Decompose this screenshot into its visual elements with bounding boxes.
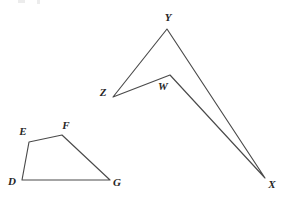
vertex-label-g: G <box>113 177 121 188</box>
vertex-label-e: E <box>19 126 26 137</box>
vertex-label-x: X <box>268 179 275 190</box>
geometry-diagram-canvas: DEFGWXYZ <box>0 0 290 200</box>
vertex-label-w: W <box>158 81 168 92</box>
quadrilateral-defg <box>22 135 110 180</box>
top-edge-fragment-2 <box>37 0 40 4</box>
edges-layer <box>22 29 265 180</box>
vertex-label-z: Z <box>100 87 107 98</box>
top-edge-fragment-1 <box>18 0 25 3</box>
vertex-label-d: D <box>8 176 16 187</box>
figure-svg <box>0 0 290 200</box>
quadrilateral-wxyz <box>113 29 265 178</box>
vertex-label-y: Y <box>165 12 172 23</box>
vertex-label-f: F <box>62 120 69 131</box>
